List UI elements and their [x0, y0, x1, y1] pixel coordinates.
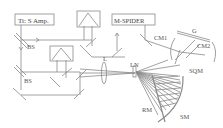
laser-label: Ti: S Amp.: [18, 17, 49, 25]
cm2-mirror: [212, 42, 216, 62]
bs-top-label: BS: [27, 43, 35, 50]
lens-label: L: [103, 55, 107, 62]
bs-bottom-label: BS: [24, 77, 32, 84]
cm2-label: CM2: [197, 42, 210, 49]
sm-label: SM: [180, 113, 190, 120]
beam-splitter-bottom: [14, 65, 26, 77]
spider-label: M-SPIDER: [114, 17, 145, 24]
optical-setup-diagram: Ti: S Amp. M-SPIDER BS BS L CM1 G CM2 LN…: [0, 0, 223, 128]
grating-label: G: [192, 27, 197, 34]
cm1-label: CM1: [154, 34, 167, 41]
rm-label: RM: [142, 106, 152, 113]
ln-label: LN: [130, 61, 139, 68]
mirror: [13, 88, 26, 100]
sqm-label: SQM: [189, 67, 203, 74]
retroreflector-top: [77, 11, 100, 46]
retroreflector-bottom: [50, 46, 73, 78]
